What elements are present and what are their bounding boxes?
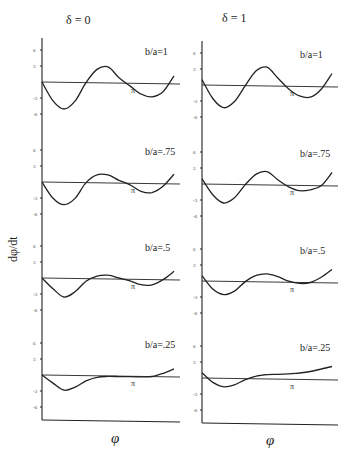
x-axis-label-left: φ [111,430,119,446]
pi-marker: π [131,282,135,291]
panels-group: 63-3-6b/a=1π63-3-6b/a=.75π63-3-6b/a=.5π6… [33,38,338,425]
panel-label: b/a=1 [300,49,323,60]
y-tick-label: 6 [193,150,196,155]
y-tick-label: -6 [33,112,38,117]
panel-label: b/a=1 [145,46,168,57]
y-tick-label: 3 [193,166,196,171]
y-tick-label: 3 [33,260,36,265]
panel-label: b/a=.75 [300,148,330,159]
x-axis-label-right: φ [266,432,274,448]
y-tick-label: 6 [193,247,196,252]
y-tick-label: -6 [193,311,198,316]
panel-label: b/a=.75 [145,146,175,157]
y-tick-label: 6 [33,341,36,346]
y-tick-label: 3 [33,357,36,362]
y-tick-label: -3 [33,389,38,394]
column-title-delta-1: δ = 1 [222,11,246,25]
zero-line [42,82,180,84]
zero-line [202,184,338,186]
y-tick-label: 3 [193,263,196,268]
pi-marker: π [290,285,294,294]
data-curve [202,367,332,387]
y-tick-label: 6 [193,51,196,56]
y-tick-label: -3 [33,292,38,297]
y-tick-label: 6 [193,344,196,349]
pi-marker: π [290,382,294,391]
data-curve [42,174,174,205]
panel-label: b/a=.5 [300,245,325,256]
y-tick-label: 3 [33,164,36,169]
zero-line [202,85,338,87]
y-tick-label: -3 [33,196,38,201]
y-axis-label: dφ/dt [6,236,20,262]
zero-line [42,182,180,184]
panel-label: b/a=.25 [145,339,175,350]
y-tick-label: 6 [33,244,36,249]
panel-label: b/a=.25 [300,342,330,353]
data-curve [42,369,174,391]
y-tick-label: 6 [33,48,36,53]
y-tick-label: -6 [33,308,38,313]
y-tick-label: -6 [193,408,198,413]
x-axis-line [42,420,180,422]
y-tick-label: -3 [33,96,38,101]
y-tick-label: -3 [193,198,198,203]
panel-label: b/a=.5 [145,242,170,253]
y-tick-label: -6 [33,212,38,217]
column-title-delta-0: δ = 0 [66,13,90,27]
data-curve [42,271,174,297]
zero-line [42,278,180,280]
y-tick-label: 6 [33,148,36,153]
data-curve [42,66,174,109]
y-tick-label: -3 [193,295,198,300]
data-curve [202,171,332,203]
y-tick-label: -6 [33,405,38,410]
y-tick-label: -3 [193,392,198,397]
y-tick-label: 3 [33,64,36,69]
y-tick-label: -6 [193,214,198,219]
y-tick-label: 3 [193,360,196,365]
zero-line [202,378,338,380]
pi-marker: π [131,379,135,388]
y-tick-label: 3 [193,67,196,72]
x-axis-line [202,423,338,425]
data-curve [202,67,332,108]
y-tick-label: -6 [193,115,198,120]
figure-canvas: δ = 0 δ = 1 dφ/dt φ φ 63-3-6b/a=1π63-3-6… [0,0,356,466]
zero-line [202,281,338,283]
y-tick-label: -3 [193,99,198,104]
